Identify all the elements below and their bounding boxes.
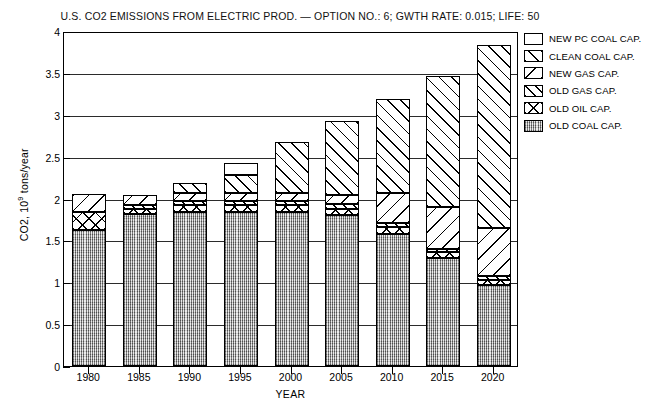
y-axis-tick-label: 3 (26, 110, 60, 122)
bar-segment (123, 205, 157, 208)
x-axis-tick-mark (291, 367, 292, 374)
bar-segment (173, 205, 207, 212)
bar-stack (275, 31, 309, 366)
bar-segment (376, 99, 410, 194)
bar-segment (325, 215, 359, 366)
bar-segment (325, 195, 359, 204)
bar-stack (376, 31, 410, 366)
x-axis-tick-mark (240, 367, 241, 374)
legend-item[interactable]: OLD GAS CAP. (524, 82, 669, 99)
bar-segment (376, 223, 410, 227)
legend-item[interactable]: NEW GAS CAP. (524, 65, 669, 82)
bar-segment (123, 209, 157, 214)
bar-segment (173, 193, 207, 201)
bar-segment (224, 201, 258, 205)
bar-segment (325, 121, 359, 196)
bar-stack (477, 31, 511, 366)
plot-area (63, 32, 518, 367)
bar-segment (123, 195, 157, 205)
bar-segment (72, 230, 106, 366)
y-axis-tick-label: 2 (26, 194, 60, 206)
legend-item-label: NEW GAS CAP. (549, 68, 619, 79)
bar-segment (275, 193, 309, 201)
bar-stack (123, 31, 157, 366)
bar-segment (224, 212, 258, 366)
bar-segment (376, 227, 410, 234)
bar-segment (224, 175, 258, 193)
bar-stack (72, 31, 106, 366)
legend-item-label: CLEAN COAL CAP. (549, 51, 635, 62)
y-axis-tick-mark (63, 325, 70, 326)
y-axis-tick-mark (63, 74, 70, 75)
bar-segment (72, 194, 106, 212)
bar-segment (477, 280, 511, 285)
x-axis-tick-mark (341, 367, 342, 374)
legend-item[interactable]: CLEAN COAL CAP. (524, 47, 669, 64)
x-axis-tick-mark (139, 367, 140, 374)
bar-stack (325, 31, 359, 366)
y-axis-tick-label: 2.5 (26, 152, 60, 164)
bar-segment (173, 212, 207, 366)
x-axis-tick-mark (189, 367, 190, 374)
bar-segment (477, 228, 511, 277)
bar-segment (275, 205, 309, 212)
bar-stack (224, 31, 258, 366)
bar-segment (376, 193, 410, 222)
legend-item[interactable]: NEW PC COAL CAP. (524, 30, 669, 47)
legend-swatch-icon (524, 120, 543, 132)
legend-item-label: OLD OIL CAP. (549, 103, 612, 114)
bar-segment (123, 214, 157, 366)
y-axis-tick-mark (63, 32, 70, 33)
y-axis-tick-mark (63, 116, 70, 117)
y-axis-tick-label: 0.5 (26, 319, 60, 331)
y-axis-tick-mark (63, 241, 70, 242)
y-axis-tick-mark (63, 200, 70, 201)
bar-segment (477, 285, 511, 366)
y-axis-tick-label: 1 (26, 277, 60, 289)
bar-segment (325, 204, 359, 208)
y-axis-tick-mark (63, 367, 70, 368)
bar-segment (426, 76, 460, 207)
bar-segment (376, 234, 410, 366)
legend-swatch-icon (524, 50, 543, 62)
bar-stack (426, 31, 460, 366)
x-axis-tick-mark (88, 367, 89, 374)
legend-swatch-icon (524, 67, 543, 79)
chart-figure: U.S. CO2 EMISSIONS FROM ELECTRIC PROD. —… (0, 0, 671, 408)
y-axis-tick-label: 4 (26, 26, 60, 38)
bar-segment (477, 45, 511, 228)
bar-segment (426, 252, 460, 258)
y-axis-tick-labels: 00.511.522.533.54 (18, 32, 60, 367)
legend-item-label: NEW PC COAL CAP. (549, 33, 641, 44)
x-axis-tick-mark (392, 367, 393, 374)
legend-item[interactable]: OLD COAL CAP. (524, 117, 669, 134)
bar-segment (224, 193, 258, 201)
y-axis-tick-mark (63, 283, 70, 284)
x-axis-tick-mark (442, 367, 443, 374)
bar-segment (173, 201, 207, 205)
legend-swatch-icon (524, 33, 543, 45)
bar-segment (325, 209, 359, 216)
y-axis-tick-mark (63, 158, 70, 159)
legend-item-label: OLD COAL CAP. (549, 120, 622, 131)
bar-segment (426, 249, 460, 252)
bar-segment (173, 183, 207, 193)
y-axis-tick-label: 0 (26, 361, 60, 373)
bar-segment (275, 212, 309, 366)
bar-segment (275, 201, 309, 205)
y-axis-tick-label: 3.5 (26, 68, 60, 80)
x-axis-title: YEAR (63, 388, 518, 400)
bar-segment (224, 205, 258, 212)
x-axis-tick-mark (493, 367, 494, 374)
legend-swatch-icon (524, 85, 543, 97)
chart-title: U.S. CO2 EMISSIONS FROM ELECTRIC PROD. —… (0, 10, 600, 22)
bar-stack (173, 31, 207, 366)
bar-segment (275, 142, 309, 193)
bar-segment (224, 163, 258, 176)
legend-item[interactable]: OLD OIL CAP. (524, 100, 669, 117)
bar-segment (426, 258, 460, 366)
chart-legend: NEW PC COAL CAP.CLEAN COAL CAP.NEW GAS C… (524, 30, 669, 134)
bar-segment (426, 207, 460, 249)
legend-item-label: OLD GAS CAP. (549, 85, 617, 96)
bar-segment (72, 212, 106, 230)
